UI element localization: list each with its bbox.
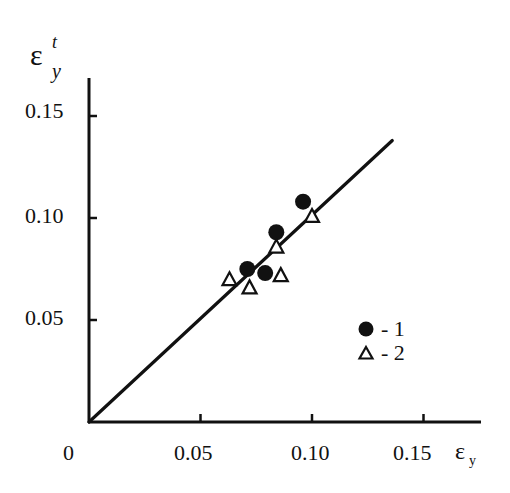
y-axis-title: ε t y <box>30 38 43 72</box>
y-tick-label: 0.15 <box>25 98 64 124</box>
data-point-circle <box>257 265 273 281</box>
data-point-triangle <box>243 280 257 293</box>
data-point-triangle <box>274 268 288 281</box>
legend-item-2: - 2 <box>357 340 405 366</box>
legend-label: - 1 <box>381 316 405 342</box>
legend-label: - 2 <box>381 340 405 366</box>
fit-line <box>89 140 392 422</box>
filled-circle-icon <box>357 320 375 338</box>
y-axis-epsilon: ε <box>30 38 43 71</box>
x-tick-label: 0.10 <box>291 440 330 466</box>
legend-item-1: - 1 <box>357 316 405 342</box>
x-axis-epsilon: ε <box>455 438 465 464</box>
data-points <box>222 194 319 294</box>
x-axis-title: ε y <box>455 438 476 465</box>
open-triangle-icon <box>357 344 375 362</box>
x-tick-label: 0.15 <box>393 440 432 466</box>
x-tick-label: 0.05 <box>174 440 213 466</box>
y-tick-label: 0.05 <box>25 305 64 331</box>
data-point-triangle <box>222 272 236 285</box>
data-point-circle <box>239 261 255 277</box>
data-point-circle <box>295 194 311 210</box>
y-axis-subscript: y <box>52 60 61 83</box>
scatter-chart <box>0 0 510 493</box>
y-tick-label: 0.10 <box>25 203 64 229</box>
y-axis-superscript: t <box>52 32 57 53</box>
x-axis-subscript: y <box>469 453 476 468</box>
origin-label: 0 <box>63 440 74 466</box>
